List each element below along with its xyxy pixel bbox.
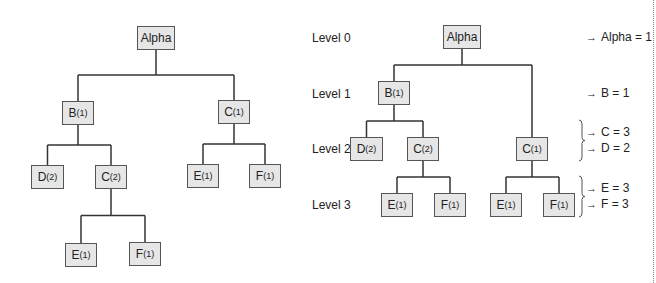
- legend-text: D = 2: [601, 141, 630, 155]
- arrow-right-icon: →: [586, 142, 597, 154]
- legend-item-f: →F = 3: [586, 197, 629, 211]
- node-e: E(1): [381, 193, 413, 217]
- node-e: E(1): [65, 243, 97, 267]
- node-label: B: [68, 106, 76, 120]
- node-b: B(1): [62, 101, 94, 125]
- node-e: E(1): [187, 164, 219, 188]
- node-c: C(1): [218, 100, 250, 124]
- brace-level-3-icon: [579, 176, 585, 217]
- node-f: F(1): [543, 193, 575, 217]
- legend-text: E = 3: [601, 181, 629, 195]
- legend-text: F = 3: [601, 197, 629, 211]
- legend-item-d: →D = 2: [586, 141, 630, 155]
- node-label: C: [522, 142, 531, 156]
- node-label: C: [224, 105, 233, 119]
- node-e: E(1): [490, 193, 522, 217]
- legend-text: B = 1: [601, 86, 629, 100]
- node-label: Alpha: [141, 31, 172, 45]
- node-alpha: Alpha: [137, 26, 175, 50]
- arrow-right-icon: →: [586, 198, 597, 210]
- node-d: D(2): [31, 165, 64, 189]
- node-label: F: [441, 198, 448, 212]
- node-f: F(1): [434, 193, 466, 217]
- node-f: F(1): [129, 242, 161, 266]
- legend-item-b: →B = 1: [586, 86, 629, 100]
- node-c: C(2): [95, 165, 127, 189]
- node-label: E: [193, 169, 201, 183]
- legend-item-alpha: →Alpha = 1: [586, 30, 652, 44]
- node-label: F: [256, 169, 263, 183]
- node-label: B: [384, 86, 392, 100]
- legend-text: C = 3: [601, 125, 630, 139]
- node-alpha: Alpha: [443, 25, 481, 49]
- node-label: D: [38, 170, 47, 184]
- legend-text: Alpha = 1: [601, 30, 652, 44]
- legend-item-e: →E = 3: [586, 181, 629, 195]
- dotted-divider: [653, 0, 654, 283]
- level-label-0: Level 0: [312, 31, 351, 45]
- node-label: E: [71, 248, 79, 262]
- node-label: Alpha: [447, 30, 478, 44]
- node-label: F: [550, 198, 557, 212]
- arrow-right-icon: →: [586, 182, 597, 194]
- arrow-right-icon: →: [586, 31, 597, 43]
- level-label-2: Level 2: [312, 142, 351, 156]
- node-b: B(1): [378, 81, 410, 105]
- node-label: E: [496, 198, 504, 212]
- arrow-right-icon: →: [586, 126, 597, 138]
- node-label: C: [413, 142, 422, 156]
- arrow-right-icon: →: [586, 87, 597, 99]
- legend-item-c: →C = 3: [586, 125, 630, 139]
- node-label: C: [101, 170, 110, 184]
- level-label-3: Level 3: [312, 198, 351, 212]
- node-c: C(2): [407, 137, 439, 161]
- node-d: D(2): [350, 137, 383, 161]
- node-label: F: [136, 247, 143, 261]
- node-c: C(1): [516, 137, 548, 161]
- node-label: E: [387, 198, 395, 212]
- brace-level-2-icon: [579, 120, 585, 161]
- node-f: F(1): [249, 164, 281, 188]
- level-label-1: Level 1: [312, 87, 351, 101]
- node-label: D: [357, 142, 366, 156]
